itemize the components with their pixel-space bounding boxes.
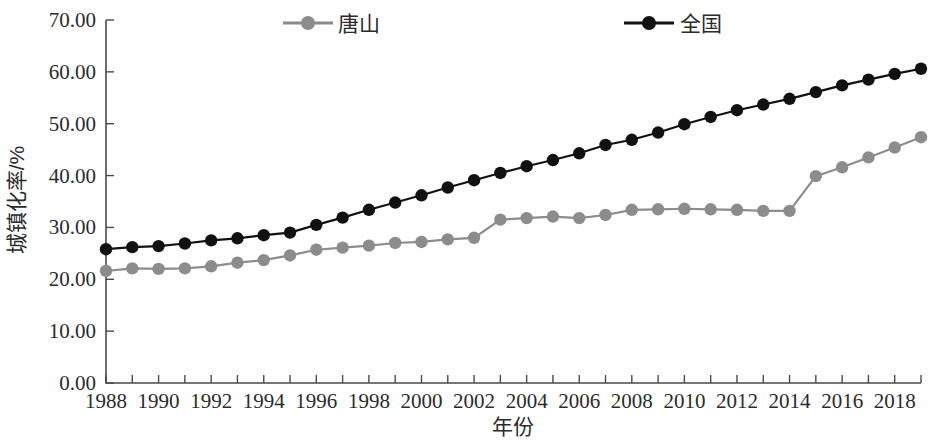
data-point (284, 249, 296, 261)
data-point (442, 181, 454, 193)
data-point (915, 131, 927, 143)
data-point (810, 170, 822, 182)
data-point (626, 134, 638, 146)
chart-series (100, 63, 927, 278)
data-point (231, 256, 243, 268)
data-point (810, 86, 822, 98)
data-point (336, 211, 348, 223)
y-axis-ticks: 0.0010.0020.0030.0040.0050.0060.0070.00 (49, 8, 114, 395)
data-point (389, 196, 401, 208)
data-point (573, 212, 585, 224)
x-tick-label: 1988 (85, 389, 127, 413)
x-tick-label: 2006 (558, 389, 600, 413)
x-tick-label: 2000 (400, 389, 442, 413)
data-point (862, 151, 874, 163)
chart-container: 唐山全国 0.0010.0020.0030.0040.0050.0060.007… (0, 0, 931, 441)
data-point (915, 63, 927, 75)
data-point (573, 147, 585, 159)
data-point (100, 265, 112, 277)
legend-marker (642, 16, 656, 30)
y-tick-label: 30.00 (49, 215, 96, 239)
data-point (547, 210, 559, 222)
data-point (836, 79, 848, 91)
y-tick-label: 40.00 (49, 164, 96, 188)
y-tick-label: 10.00 (49, 319, 96, 343)
legend-item-唐山: 唐山 (283, 12, 380, 35)
chart-axes (106, 20, 921, 383)
x-tick-label: 2012 (716, 389, 758, 413)
data-point (494, 213, 506, 225)
y-tick-label: 50.00 (49, 112, 96, 136)
data-point (258, 254, 270, 266)
data-point (547, 154, 559, 166)
data-point (757, 98, 769, 110)
data-point (205, 234, 217, 246)
data-point (599, 209, 611, 221)
data-point (889, 68, 901, 80)
x-tick-label: 2004 (506, 389, 549, 413)
data-point (731, 104, 743, 116)
legend-marker (301, 16, 315, 30)
y-axis-title: 城镇化率/% (5, 146, 28, 255)
data-point (783, 93, 795, 105)
data-point (100, 243, 112, 255)
chart-legend: 唐山全国 (283, 12, 722, 35)
data-point (415, 189, 427, 201)
data-point (231, 232, 243, 244)
data-point (126, 241, 138, 253)
data-point (363, 204, 375, 216)
data-point (520, 212, 532, 224)
data-point (599, 139, 611, 151)
y-tick-label: 70.00 (49, 8, 96, 32)
y-tick-label: 60.00 (49, 60, 96, 84)
data-point (468, 232, 480, 244)
data-point (415, 236, 427, 248)
x-tick-label: 2002 (453, 389, 495, 413)
data-point (731, 204, 743, 216)
x-tick-label: 1998 (348, 389, 390, 413)
data-point (126, 262, 138, 274)
legend-item-全国: 全国 (624, 12, 722, 35)
x-tick-label: 2018 (874, 389, 916, 413)
data-point (310, 244, 322, 256)
data-point (336, 241, 348, 253)
y-tick-label: 20.00 (49, 267, 96, 291)
x-tick-label: 1992 (190, 389, 232, 413)
data-point (284, 226, 296, 238)
data-point (626, 204, 638, 216)
data-point (179, 262, 191, 274)
x-tick-label: 2010 (663, 389, 705, 413)
series-唐山 (100, 131, 927, 277)
data-point (205, 260, 217, 272)
data-point (836, 161, 848, 173)
data-point (363, 239, 375, 251)
data-point (468, 174, 480, 186)
data-point (310, 219, 322, 231)
x-tick-label: 2008 (611, 389, 653, 413)
data-point (757, 205, 769, 217)
data-point (678, 118, 690, 130)
data-point (258, 229, 270, 241)
x-tick-label: 1994 (243, 389, 286, 413)
data-point (652, 126, 664, 138)
data-point (179, 237, 191, 249)
data-point (704, 203, 716, 215)
legend-label: 全国 (680, 12, 722, 35)
data-point (652, 203, 664, 215)
legend-label: 唐山 (338, 12, 380, 35)
data-point (494, 167, 506, 179)
x-tick-label: 1996 (295, 389, 337, 413)
axis-frame (106, 20, 921, 383)
x-axis-ticks: 1988199019921994199619982000200220042006… (85, 375, 921, 413)
x-tick-label: 2016 (821, 389, 863, 413)
data-point (783, 205, 795, 217)
data-point (152, 240, 164, 252)
data-point (152, 263, 164, 275)
urbanization-rate-line-chart: 唐山全国 0.0010.0020.0030.0040.0050.0060.007… (0, 0, 931, 441)
x-axis-title: 年份 (492, 415, 534, 438)
x-tick-label: 1990 (138, 389, 180, 413)
data-point (389, 237, 401, 249)
x-tick-label: 2014 (769, 389, 812, 413)
series-line (106, 137, 921, 271)
data-point (678, 203, 690, 215)
